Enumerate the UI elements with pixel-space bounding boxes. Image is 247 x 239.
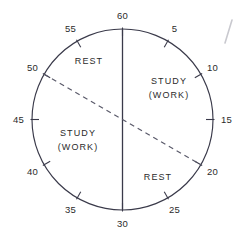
tick-label-45: 45 [13, 115, 24, 125]
tick-label-5: 5 [172, 24, 177, 34]
region-label-line1: REST [144, 172, 172, 182]
tick-label-25: 25 [169, 205, 180, 215]
clock-dial-svg [0, 0, 247, 239]
region-label-study-left: STUDY(WORK) [58, 129, 99, 153]
tick-label-60: 60 [117, 11, 128, 21]
tick-label-50: 50 [27, 63, 38, 73]
tick-label-20: 20 [207, 167, 218, 177]
region-label-line1: STUDY [60, 128, 96, 138]
clock-schedule-figure: 60510152025303540455055 RESTSTUDY(WORK)S… [0, 0, 247, 239]
region-label-study-right: STUDY(WORK) [149, 77, 190, 101]
region-label-line2: (WORK) [149, 92, 190, 101]
region-label-line1: STUDY [151, 76, 187, 86]
tick-label-30: 30 [117, 219, 128, 229]
tick-label-55: 55 [65, 24, 76, 34]
region-label-rest-top: REST [75, 57, 103, 66]
region-label-line1: REST [75, 56, 103, 66]
scan-artifact-mark [225, 20, 232, 43]
tick-label-15: 15 [221, 115, 232, 125]
region-label-line2: (WORK) [58, 144, 99, 153]
tick-label-35: 35 [65, 205, 76, 215]
tick-label-10: 10 [207, 63, 218, 73]
tick-label-40: 40 [27, 167, 38, 177]
region-label-rest-bottom: REST [144, 173, 172, 182]
